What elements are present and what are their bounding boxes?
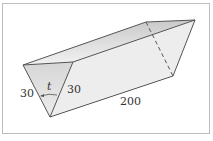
left-side-label: 30: [20, 87, 34, 100]
right-side-label: 30: [67, 83, 81, 96]
trough-diagram: 30 30 t 200: [0, 0, 213, 141]
length-label: 200: [120, 95, 141, 108]
angle-label: t: [47, 80, 52, 93]
